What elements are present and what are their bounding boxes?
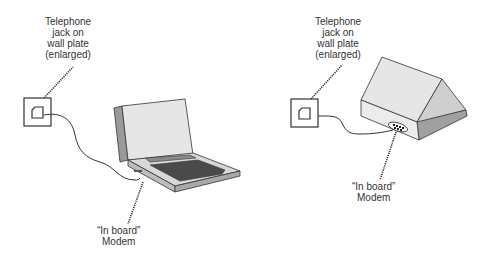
label-line: Telephone (315, 16, 361, 27)
label-line: (enlarged) (315, 49, 361, 60)
modem-diagram: Telephone jack on wall plate (enlarged) … (0, 0, 491, 257)
left-jack-label: Telephone jack on wall plate (enlarged) (45, 16, 91, 60)
notebook-rear-icon (361, 57, 467, 140)
right-modem-label: “In board” Modem (352, 181, 395, 203)
label-line: wall plate (45, 38, 91, 49)
right-jack-label: Telephone jack on wall plate (enlarged) (315, 16, 361, 60)
label-line: “In board” (352, 181, 395, 192)
left-modem-leader (128, 182, 143, 224)
left-modem-label: “In board” Modem (97, 225, 140, 247)
label-line: Telephone (45, 16, 91, 27)
label-line: Modem (97, 236, 140, 247)
label-line: (enlarged) (45, 49, 91, 60)
left-wall-plate (24, 98, 51, 126)
label-line: jack on (45, 27, 91, 38)
left-jack-leader (44, 67, 73, 98)
label-line: jack on (315, 27, 361, 38)
right-wall-plate (291, 99, 318, 127)
label-line: Modem (352, 192, 395, 203)
right-jack-leader (311, 65, 342, 99)
laptop-icon (114, 99, 240, 192)
label-line: “In board” (97, 225, 140, 236)
label-line: wall plate (315, 38, 361, 49)
right-modem-leader (380, 132, 396, 180)
